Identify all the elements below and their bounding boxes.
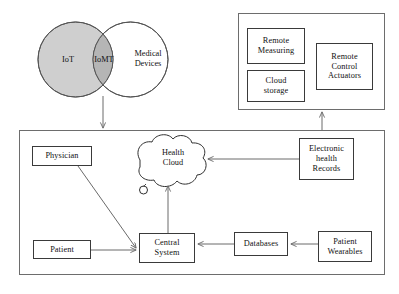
health-cloud-line1: Health	[147, 148, 199, 158]
arrow-physician-to-central-system	[78, 166, 136, 248]
diagram-canvas: IoT IoMT Medical Devices Remote Measurin…	[0, 0, 399, 294]
health-cloud-tail	[140, 186, 148, 194]
connectors-layer	[0, 0, 399, 294]
health-cloud-label: Health Cloud	[147, 148, 199, 168]
health-cloud-line2: Cloud	[147, 158, 199, 168]
